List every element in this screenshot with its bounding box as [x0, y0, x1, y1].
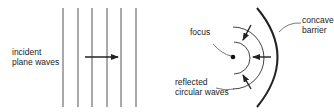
reflected-label-line2: circular waves [175, 87, 229, 97]
barrier-leader-line [279, 23, 301, 32]
focus-leader-line [213, 44, 231, 56]
barrier-label-line2: barrier [302, 25, 334, 35]
inner-circular-wave [234, 42, 250, 74]
barrier-label-line1: concave [302, 15, 334, 25]
incident-label-line1: incident [12, 47, 59, 57]
reflected-label: reflected circular waves [175, 77, 229, 97]
reflected-arrow-top-icon [243, 25, 251, 40]
incident-label: incident plane waves [12, 47, 59, 67]
outer-circular-wave [233, 27, 264, 89]
barrier-label: concave barrier [302, 15, 334, 35]
focus-point [231, 55, 236, 60]
incident-label-line2: plane waves [12, 57, 59, 67]
focus-label: focus [190, 27, 210, 37]
reflected-label-line1: reflected [175, 77, 229, 87]
